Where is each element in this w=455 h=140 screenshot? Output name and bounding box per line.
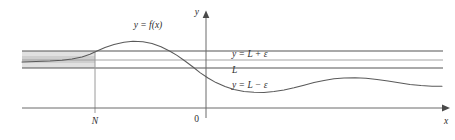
diagram-canvas: y = f(x) y = L + ε L y = L − ε N 0 y x	[0, 0, 455, 140]
limit-label: L	[231, 65, 237, 75]
origin-label: 0	[194, 114, 199, 124]
limit-diagram-figure: y = f(x) y = L + ε L y = L − ε N 0 y x	[0, 0, 455, 140]
x-axis-label: x	[443, 116, 449, 126]
curve-label: y = f(x)	[133, 20, 163, 31]
upper-band-label: y = L + ε	[231, 49, 268, 59]
y-axis-label: y	[194, 7, 200, 17]
x-axis-arrowhead	[442, 105, 450, 112]
y-axis-arrowhead	[203, 11, 210, 19]
lower-band-label: y = L − ε	[231, 80, 268, 90]
n-marker-label: N	[91, 116, 99, 126]
